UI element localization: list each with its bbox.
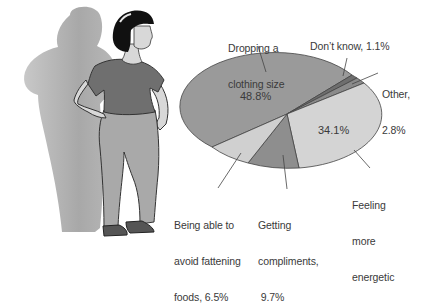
label-avoid-line1: Being able to [174,219,241,231]
value-feeling-more-energetic: 34.1% [318,124,349,136]
label-compliments-line2: compliments, [258,255,319,267]
label-feeling-more-energetic: Feeling more energetic [352,175,394,295]
label-compliments-line1: Getting [258,219,319,231]
label-energetic-line3: energetic [352,271,394,283]
label-avoid-fattening-foods: Being able to avoid fattening foods, 6.5… [174,195,241,307]
leader-energetic [354,150,370,168]
label-avoid-line3: foods, 6.5% [174,291,241,303]
label-energetic-line2: more [352,235,394,247]
label-avoid-line2: avoid fattening [174,255,241,267]
label-energetic-line1: Feeling [352,199,394,211]
label-dropping-line2: clothing size [228,78,284,90]
label-other-line1: Other, [382,88,410,100]
leader-avoid [218,153,241,188]
label-dont-know: Don’t know, 1.1% [310,40,390,52]
label-getting-compliments: Getting compliments, 9.7% [258,195,319,307]
label-compliments-line3: 9.7% [258,291,319,303]
label-dropping-line1: Dropping a [228,42,284,54]
label-other: Other, 2.8% [382,64,410,148]
label-other-line2: 2.8% [382,124,410,136]
value-dropping-clothing-size: 48.8% [240,90,271,102]
